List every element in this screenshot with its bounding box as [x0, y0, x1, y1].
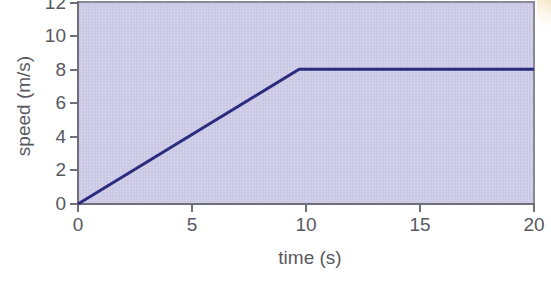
series-line-speed [78, 69, 534, 204]
data-series-layer [0, 0, 551, 289]
speed-time-chart: 0 2 4 6 8 10 12 0 5 10 15 20 time (s) sp… [0, 0, 551, 289]
